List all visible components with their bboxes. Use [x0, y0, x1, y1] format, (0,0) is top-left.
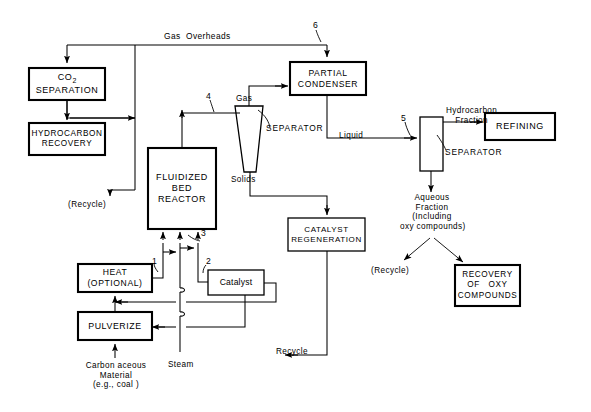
label-liquid: Liquid	[339, 131, 363, 141]
crossover-jump-lower	[180, 312, 185, 316]
box-fluidized-bed-reactor	[148, 148, 216, 229]
leader-numeral-4	[210, 100, 214, 112]
label-separator-cone: SEPARATOR	[266, 124, 323, 134]
label-steam: Steam	[168, 360, 194, 370]
leader-numeral-5	[405, 122, 410, 135]
label-separator-column: SEPARATOR	[445, 148, 502, 158]
line-aqueous-to-recycle	[404, 238, 430, 260]
process-flow-diagram: CO2SEPARATION HYDROCARBON RECOVERY FLUID…	[0, 0, 591, 412]
line-recycle-outlet	[110, 190, 135, 196]
label-recycle-aqueous: (Recycle)	[371, 266, 409, 276]
label-solids: Solids	[231, 175, 256, 185]
numeral-6: 6	[313, 20, 318, 30]
box-recovery-oxy-compounds	[455, 265, 520, 306]
box-catalyst-regeneration	[288, 218, 365, 251]
label-hydrocarbon-fraction: Hydrocarbon Fraction	[446, 106, 497, 125]
box-hydrocarbon-recovery	[29, 123, 105, 155]
line-aqueous-to-recovery	[434, 238, 463, 262]
numeral-5: 5	[401, 113, 406, 123]
crossover-jump-upper	[180, 288, 185, 292]
numeral-1: 1	[152, 256, 157, 266]
label-carbonaceous-material: Carbon aceous Material (e.g., coal )	[71, 361, 161, 390]
line-catalyst-down	[186, 295, 245, 327]
label-aqueous-fraction: Aqueous Fraction (Including oxy compound…	[400, 193, 464, 232]
box-pulverize	[78, 312, 152, 340]
line-regen-recycle	[288, 251, 327, 355]
label-recycle-left: (Recycle)	[68, 200, 106, 210]
box-co2-separation	[29, 68, 105, 100]
box-heat-optional	[78, 264, 152, 292]
numeral-2: 2	[206, 256, 211, 266]
leader-numeral-6	[316, 30, 321, 42]
label-gas: Gas	[236, 94, 252, 104]
box-liquid-separator	[420, 117, 443, 171]
label-gas-overheads: Gas Overheads	[164, 32, 231, 42]
numeral-3: 3	[201, 228, 206, 238]
label-recycle-catalyst: Recycle	[276, 347, 308, 357]
line-cone-gas-out	[249, 86, 285, 106]
shape-separator-cone	[235, 106, 263, 172]
box-catalyst	[208, 270, 264, 295]
box-partial-condenser	[290, 62, 366, 95]
line-reactor-gas-out	[182, 113, 233, 148]
numeral-4: 4	[206, 91, 211, 101]
line-solids-to-regen	[250, 172, 327, 213]
leader-numeral-2	[203, 265, 206, 273]
